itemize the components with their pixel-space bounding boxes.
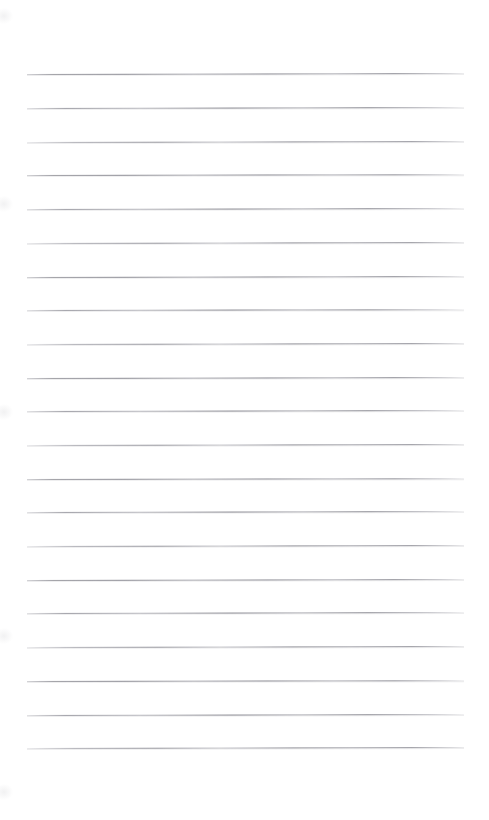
- ruled-lines-group: [0, 0, 489, 820]
- ruled-line: [27, 107, 464, 109]
- ruled-line: [27, 680, 464, 682]
- ruled-line: [27, 141, 464, 143]
- ruled-line: [27, 377, 464, 379]
- ruled-line: [27, 478, 464, 480]
- ruled-line: [27, 747, 464, 749]
- scanned-page: [0, 0, 489, 820]
- ruled-line: [27, 242, 464, 244]
- ruled-line: [27, 343, 464, 345]
- ruled-line: [27, 545, 464, 547]
- ruled-line: [27, 444, 464, 446]
- ruled-line: [27, 73, 464, 75]
- ruled-line: [27, 174, 464, 176]
- ruled-line: [27, 646, 464, 648]
- ruled-line: [27, 410, 464, 412]
- ruled-line: [27, 208, 464, 210]
- ruled-line: [27, 612, 464, 614]
- ruled-line: [27, 579, 464, 581]
- ruled-line: [27, 714, 464, 716]
- ruled-line: [27, 511, 464, 513]
- ruled-line: [27, 309, 464, 311]
- ruled-line: [27, 276, 464, 278]
